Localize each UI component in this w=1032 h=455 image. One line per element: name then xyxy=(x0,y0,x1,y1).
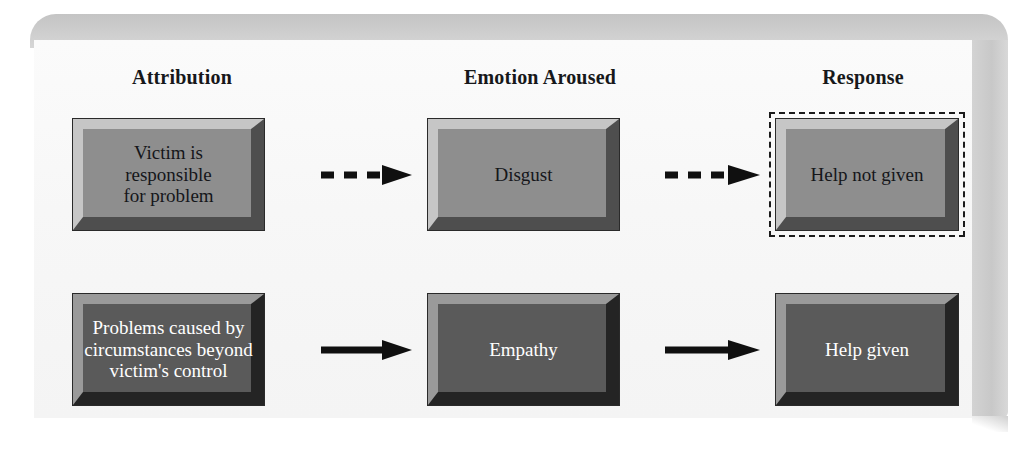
column-heading-attribution: Attribution xyxy=(132,66,232,89)
node-attribution-victim-responsible: Victim isresponsiblefor problem xyxy=(72,118,265,231)
arrow-solid-attribution-to-emotion xyxy=(320,338,420,362)
arrow-dashed-emotion-to-response xyxy=(664,163,768,187)
arrow-dashed-attribution-to-emotion xyxy=(320,163,420,187)
node-label: Empathy xyxy=(479,339,568,361)
node-label: Help given xyxy=(815,339,919,361)
arrow-solid-emotion-to-response xyxy=(664,338,768,362)
column-heading-response: Response xyxy=(822,66,904,89)
node-emotion-disgust: Disgust xyxy=(427,118,620,231)
node-response-help-given: Help given xyxy=(775,293,959,406)
node-label: Disgust xyxy=(484,164,562,186)
figure-root: Attribution Emotion Aroused Response Vic… xyxy=(0,0,1032,455)
node-emotion-empathy: Empathy xyxy=(427,293,620,406)
figure-frame-right-band xyxy=(972,40,1008,418)
node-label: Victim isresponsiblefor problem xyxy=(113,142,223,207)
node-label: Help not given xyxy=(801,164,934,186)
node-label: Problems caused bycircumstances beyondvi… xyxy=(74,317,262,382)
node-response-help-not-given: Help not given xyxy=(775,118,959,231)
node-attribution-circumstances-beyond-control: Problems caused bycircumstances beyondvi… xyxy=(72,293,265,406)
column-heading-emotion-aroused: Emotion Aroused xyxy=(464,66,616,89)
